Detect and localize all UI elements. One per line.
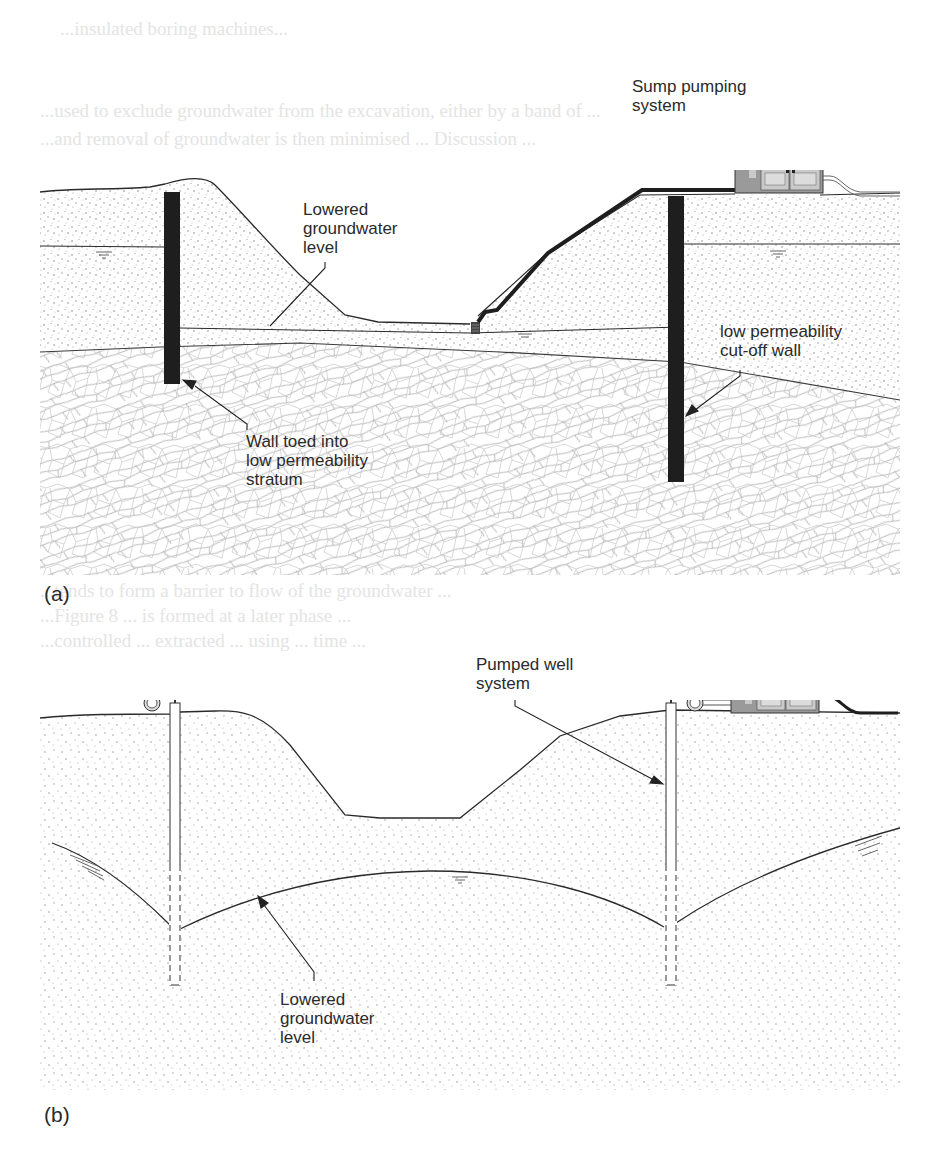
label-sump-pumping-system: Sump pumping system bbox=[632, 77, 746, 115]
panel-b-cross-section bbox=[40, 656, 900, 1090]
label-pumped-well-system: Pumped well system bbox=[476, 655, 573, 693]
figure-canvas bbox=[0, 0, 933, 1160]
panel-label-b: (b) bbox=[44, 1103, 70, 1127]
label-lowered-groundwater-b: Lowered groundwater level bbox=[280, 990, 375, 1047]
pump-unit-b bbox=[729, 656, 821, 713]
label-wall-toed: Wall toed into low permeability stratum bbox=[246, 432, 368, 489]
cutoff-wall-right bbox=[668, 196, 684, 482]
pump-unit-a bbox=[733, 131, 825, 193]
panel-label-a: (a) bbox=[44, 582, 70, 606]
cutoff-wall-left bbox=[164, 192, 180, 384]
label-lowered-groundwater-a: Lowered groundwater level bbox=[303, 200, 398, 257]
label-cutoff-wall: low permeability cut-off wall bbox=[720, 322, 842, 360]
